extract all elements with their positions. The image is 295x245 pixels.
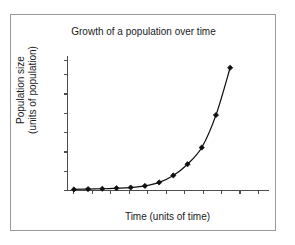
data-point-marker — [213, 113, 218, 118]
data-point-marker — [157, 180, 162, 185]
chart-figure: Growth of a population over time Populat… — [0, 0, 295, 245]
plot-area — [0, 0, 295, 245]
plot-svg — [0, 0, 295, 245]
data-point-marker — [71, 187, 76, 192]
axes — [68, 56, 269, 191]
data-point-marker — [142, 183, 147, 188]
data-markers-population — [71, 65, 232, 192]
data-point-marker — [128, 185, 133, 190]
data-line-population — [74, 68, 230, 190]
data-point-marker — [228, 65, 233, 70]
